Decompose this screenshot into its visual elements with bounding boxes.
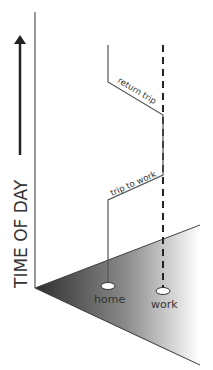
time-geography-diagram: TIME OF DAY return trip trip to work hom…	[0, 0, 213, 370]
work-label: work	[151, 298, 178, 311]
axis-label: TIME OF DAY	[11, 179, 31, 289]
home-label: home	[94, 293, 125, 306]
trip-to-work-label: trip to work	[109, 169, 158, 198]
work-marker-icon	[156, 288, 170, 295]
time-arrow-head-icon	[14, 35, 26, 44]
home-marker-icon	[101, 283, 115, 290]
